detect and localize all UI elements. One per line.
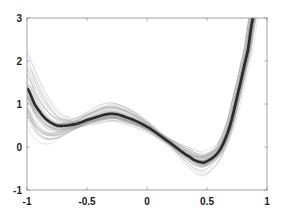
mean-curve [27, 0, 267, 163]
x-axis-tick-labels: -1-0.500.51 [23, 196, 271, 207]
x-tick-label: 0 [144, 196, 150, 207]
y-tick-label: 0 [16, 142, 22, 153]
chart: -1-0.500.51 -10123 [0, 0, 281, 217]
x-tick-label: -0.5 [78, 196, 96, 207]
y-tick-label: 2 [16, 56, 22, 67]
x-tick-label: -1 [23, 196, 32, 207]
sample-curves [27, 0, 267, 176]
y-tick-label: 3 [16, 13, 22, 24]
y-tick-label: -1 [13, 185, 22, 196]
x-tick-label: 0.5 [200, 196, 214, 207]
x-tick-label: 1 [264, 196, 270, 207]
y-axis-tick-labels: -10123 [13, 13, 22, 196]
y-tick-label: 1 [16, 99, 22, 110]
